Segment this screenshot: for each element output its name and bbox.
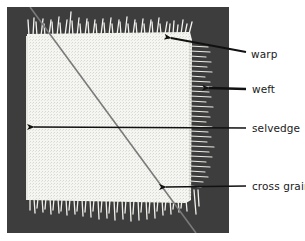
label-selvedge: selvedge [252,122,300,134]
label-weft: weft [252,83,275,95]
label-warp: warp [251,48,277,60]
fabric-grain-diagram: warp weft selvedge cross grain [0,0,305,241]
label-cross-grain: cross grain [252,180,305,192]
weft-arrow [209,88,246,89]
diagram-overlay [0,0,305,241]
